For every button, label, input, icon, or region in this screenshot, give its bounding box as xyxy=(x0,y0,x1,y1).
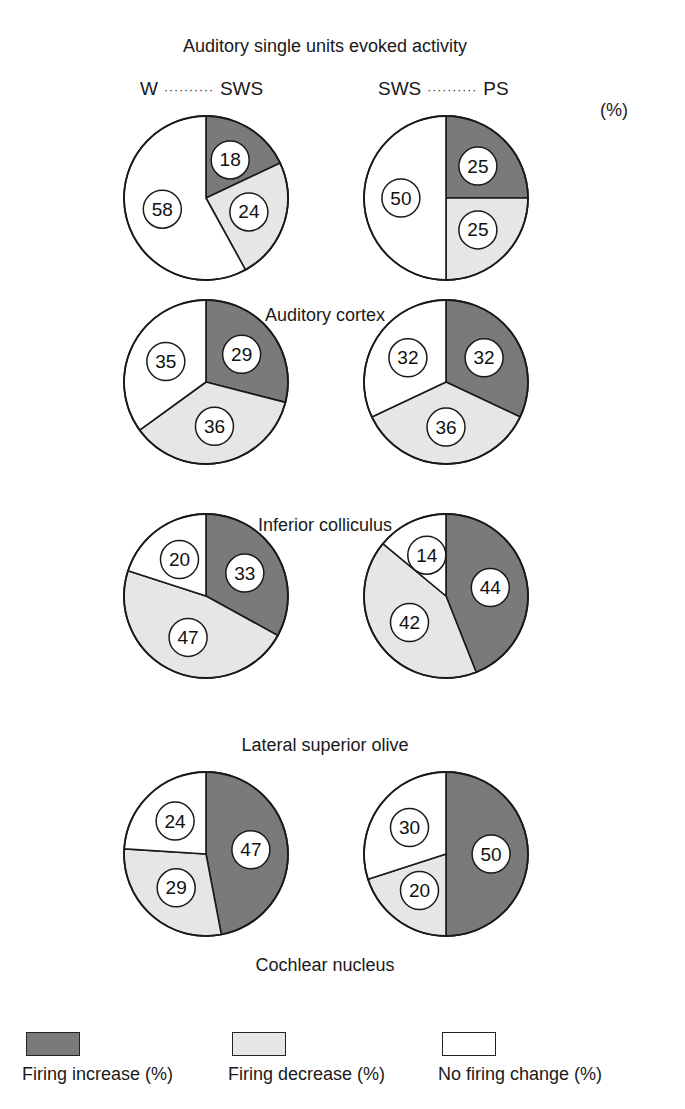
svg-text:20: 20 xyxy=(409,880,430,901)
pie-value-label: 50 xyxy=(472,835,510,873)
row-label-lateral-superior-olive: Lateral superior olive xyxy=(0,735,650,756)
svg-text:30: 30 xyxy=(399,817,420,838)
legend-swatch-no-change xyxy=(442,1032,496,1056)
legend-item-decrease xyxy=(232,1032,286,1056)
legend-item-no-change xyxy=(442,1032,496,1056)
legend-swatch-decrease xyxy=(232,1032,286,1056)
pie-chart: 502030 xyxy=(0,0,685,1109)
row-label-auditory-cortex: Auditory cortex xyxy=(0,305,650,326)
legend-label-increase: Firing increase (%) xyxy=(22,1064,173,1085)
pie-value-label: 30 xyxy=(391,808,429,846)
svg-text:50: 50 xyxy=(481,844,502,865)
legend-swatch-increase xyxy=(26,1032,80,1056)
legend-item-increase xyxy=(26,1032,80,1056)
row-label-cochlear-nucleus: Cochlear nucleus xyxy=(0,955,650,976)
legend-label-no-change: No firing change (%) xyxy=(438,1064,602,1085)
legend-label-decrease: Firing decrease (%) xyxy=(228,1064,385,1085)
row-label-inferior-colliculus: Inferior colliculus xyxy=(0,515,650,536)
pie-value-label: 20 xyxy=(400,871,438,909)
